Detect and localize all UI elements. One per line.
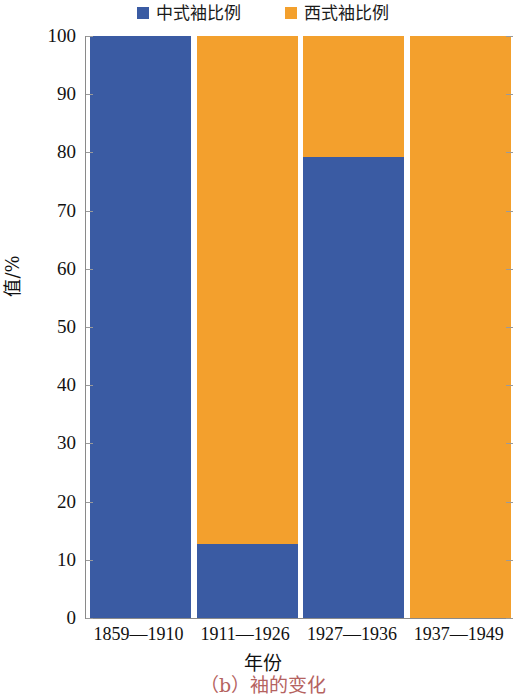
y-tick-mark-right xyxy=(506,152,513,153)
x-tick-label: 1937—1949 xyxy=(405,622,512,646)
x-tick-label: 1927—1936 xyxy=(299,622,406,646)
y-tick-mark xyxy=(86,152,93,153)
y-tick-label: 90 xyxy=(57,83,76,104)
y-tick-mark-right xyxy=(506,269,513,270)
y-tick-label: 0 xyxy=(67,607,77,628)
bar-segment-western-sleeve[interactable] xyxy=(303,36,404,157)
y-tick-mark xyxy=(86,327,93,328)
chart-figure: 中式袖比例 西式袖比例 值/% 0102030405060708090100 1… xyxy=(0,0,526,698)
y-tick-mark-right xyxy=(506,443,513,444)
bar-segment-chinese-sleeve[interactable] xyxy=(90,36,191,618)
legend-swatch-western-sleeve xyxy=(285,7,297,19)
x-tick-label: 1911—1926 xyxy=(192,622,299,646)
bars-layer xyxy=(86,36,513,618)
y-tick-mark xyxy=(86,385,93,386)
chart-legend: 中式袖比例 西式袖比例 xyxy=(0,1,526,25)
y-tick-label: 20 xyxy=(57,491,76,512)
y-tick-label: 30 xyxy=(57,432,76,453)
y-tick-mark-right xyxy=(506,385,513,386)
bar-segment-western-sleeve[interactable] xyxy=(197,36,298,544)
y-tick-mark xyxy=(86,94,93,95)
bar-segment-chinese-sleeve[interactable] xyxy=(303,157,404,618)
y-tick-mark-right xyxy=(506,560,513,561)
y-tick-mark-right xyxy=(506,211,513,212)
y-tick-mark xyxy=(86,36,93,37)
y-tick-mark-right xyxy=(506,327,513,328)
bar-group[interactable] xyxy=(410,36,511,618)
y-tick-label: 50 xyxy=(57,316,76,337)
y-tick-mark xyxy=(86,211,93,212)
y-tick-mark xyxy=(86,443,93,444)
y-tick-mark xyxy=(86,269,93,270)
y-tick-mark-right xyxy=(506,502,513,503)
x-axis-title: 年份 xyxy=(0,648,526,675)
y-tick-mark-right xyxy=(506,94,513,95)
y-tick-label: 70 xyxy=(57,200,76,221)
plot-area: 0102030405060708090100 xyxy=(85,36,513,619)
legend-swatch-chinese-sleeve xyxy=(137,7,149,19)
x-tick-label: 1859—1910 xyxy=(85,622,192,646)
y-tick-label: 10 xyxy=(57,549,76,570)
y-tick-mark-right xyxy=(506,36,513,37)
legend-label-western-sleeve: 西式袖比例 xyxy=(304,5,389,22)
y-tick-mark xyxy=(86,560,93,561)
y-tick-mark xyxy=(86,502,93,503)
y-tick-label: 100 xyxy=(48,25,77,46)
legend-item-western-sleeve[interactable]: 西式袖比例 xyxy=(285,5,389,22)
bar-group[interactable] xyxy=(303,36,404,618)
x-axis-tick-labels: 1859—19101911—19261927—19361937—1949 xyxy=(85,622,512,648)
bar-group[interactable] xyxy=(90,36,191,618)
legend-label-chinese-sleeve: 中式袖比例 xyxy=(156,5,241,22)
y-tick-label: 40 xyxy=(57,374,76,395)
y-tick-label: 60 xyxy=(57,258,76,279)
bar-segment-chinese-sleeve[interactable] xyxy=(197,544,298,618)
legend-item-chinese-sleeve[interactable]: 中式袖比例 xyxy=(137,5,241,22)
y-tick-mark-right xyxy=(506,618,513,619)
y-tick-label: 80 xyxy=(57,141,76,162)
y-axis-title: 值/% xyxy=(0,241,24,311)
bar-group[interactable] xyxy=(197,36,298,618)
bar-segment-western-sleeve[interactable] xyxy=(410,36,511,618)
figure-caption: （b）袖的变化 xyxy=(0,674,526,696)
y-tick-mark xyxy=(86,618,93,619)
